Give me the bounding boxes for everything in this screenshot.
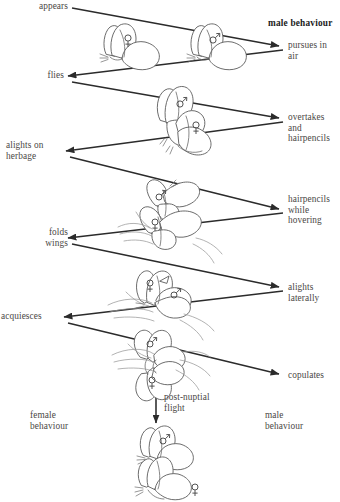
illustration-post-nuptial-flight-pair <box>135 426 198 500</box>
illustration-pair-in-flight <box>100 24 246 70</box>
step-label-folds-wings: folds wings <box>0 227 68 248</box>
step-label-alights-laterally: alights laterally <box>288 282 340 303</box>
step-label-acquiesces: acquiesces <box>1 311 65 322</box>
diagram-canvas: appears flies alights on herbage folds w… <box>0 0 340 502</box>
step-label-appears: appears <box>0 1 68 12</box>
step-label-pursues-in-air: pursues in air <box>288 40 340 61</box>
illustration-female-folded-male-lateral <box>108 271 214 340</box>
female-behaviour-footer: female behaviour <box>30 410 100 431</box>
step-label-copulates: copulates <box>288 370 340 381</box>
illustration-male-overtaking-female <box>157 86 211 154</box>
step-label-flies: flies <box>0 70 64 81</box>
step-label-alights-on-herbage: alights on herbage <box>6 140 78 161</box>
illustration-male-hovering-over-female <box>118 180 222 263</box>
step-label-post-nuptial-flight: post-nuptial flight <box>164 392 236 413</box>
step-label-hairpencils-while-hovering: hairpencils while hovering <box>288 194 340 226</box>
male-behaviour-header: male behaviour <box>268 18 333 28</box>
male-behaviour-footer: male behaviour <box>265 410 335 431</box>
illustration-copulating-pair <box>112 330 210 401</box>
step-label-overtakes-and-hairpencils: overtakes and hairpencils <box>288 112 340 144</box>
